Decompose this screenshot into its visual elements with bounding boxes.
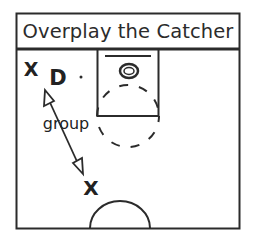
diagram-title: Overplay the Catcher xyxy=(17,14,239,48)
lane xyxy=(98,49,159,116)
group-label: group xyxy=(43,114,89,133)
player-d: D xyxy=(49,66,66,90)
player-x-top: X xyxy=(24,58,39,80)
diagram-frame: X D X group Overplay the Catcher xyxy=(0,0,253,244)
ball-dot xyxy=(80,76,83,79)
player-x-bottom: X xyxy=(83,176,99,200)
arrowhead-top-icon xyxy=(44,90,54,106)
arrowhead-bottom-icon xyxy=(73,158,83,174)
center-circle xyxy=(90,201,150,228)
rim xyxy=(120,64,138,78)
